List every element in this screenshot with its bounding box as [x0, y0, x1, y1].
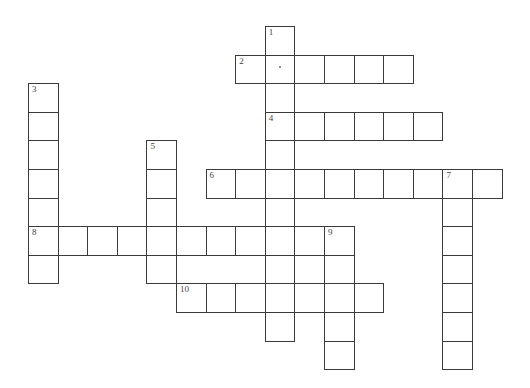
clue-number: 3: [32, 85, 37, 94]
crossword-cell[interactable]: 4: [265, 112, 296, 142]
crossword-cell[interactable]: 8: [28, 226, 59, 256]
clue-number: 6: [210, 171, 215, 180]
crossword-cell[interactable]: [146, 226, 177, 256]
crossword-cell[interactable]: [146, 169, 177, 199]
clue-number: 9: [328, 228, 333, 237]
crossword-cell[interactable]: [235, 169, 266, 199]
crossword-cell[interactable]: [265, 312, 296, 342]
crossword-cell[interactable]: [324, 255, 355, 285]
crossword-cell[interactable]: [442, 198, 473, 228]
crossword-cell[interactable]: [28, 112, 59, 142]
crossword-cell[interactable]: [28, 169, 59, 199]
crossword-cell[interactable]: [442, 312, 473, 342]
clue-number: 7: [446, 171, 451, 180]
crossword-cell[interactable]: [294, 112, 325, 142]
crossword-cell[interactable]: [146, 198, 177, 228]
crossword-cell[interactable]: [294, 55, 325, 85]
crossword-cell[interactable]: [28, 198, 59, 228]
clue-number: 10: [180, 285, 189, 294]
crossword-cell[interactable]: [265, 198, 296, 228]
clue-number: 2: [239, 57, 244, 66]
crossword-cell[interactable]: [146, 255, 177, 285]
crossword-cell[interactable]: [354, 283, 385, 313]
crossword-cell[interactable]: [442, 226, 473, 256]
crossword-cell[interactable]: [324, 341, 355, 371]
crossword-cell[interactable]: [58, 226, 89, 256]
crossword-cell[interactable]: [354, 169, 385, 199]
crossword-cell[interactable]: 6: [206, 169, 237, 199]
crossword-cell[interactable]: 9: [324, 226, 355, 256]
crossword-cell[interactable]: [472, 169, 503, 199]
clue-number: 4: [269, 114, 274, 123]
crossword-cell[interactable]: 5: [146, 140, 177, 170]
crossword-cell[interactable]: [206, 283, 237, 313]
crossword-cell[interactable]: [354, 55, 385, 85]
crossword-cell[interactable]: [265, 83, 296, 113]
crossword-cell[interactable]: [324, 112, 355, 142]
clue-number: 1: [269, 28, 274, 37]
crossword-cell[interactable]: [324, 283, 355, 313]
clue-number: 5: [150, 142, 155, 151]
crossword-cell[interactable]: [265, 140, 296, 170]
crossword-cell[interactable]: [265, 226, 296, 256]
crossword-cell[interactable]: 1: [265, 26, 296, 56]
crossword-cell[interactable]: [28, 255, 59, 285]
crossword-cell[interactable]: [206, 226, 237, 256]
crossword-cell[interactable]: [28, 140, 59, 170]
crossword-cell[interactable]: [235, 283, 266, 313]
crossword-cell[interactable]: [87, 226, 118, 256]
crossword-cell[interactable]: [294, 226, 325, 256]
crossword-cell[interactable]: [413, 169, 444, 199]
crossword-cell[interactable]: [383, 112, 414, 142]
crossword-cell[interactable]: [324, 55, 355, 85]
crossword-cell[interactable]: [324, 312, 355, 342]
crossword-cell[interactable]: [265, 55, 296, 85]
crossword-cell[interactable]: [354, 112, 385, 142]
crossword-cell[interactable]: [413, 112, 444, 142]
crossword-cell[interactable]: [294, 169, 325, 199]
crossword-cell[interactable]: [324, 169, 355, 199]
crossword-cell[interactable]: [442, 255, 473, 285]
crossword-cell[interactable]: [383, 169, 414, 199]
crossword-cell[interactable]: 7: [442, 169, 473, 199]
crossword-cell[interactable]: 2: [235, 55, 266, 85]
crossword-cell[interactable]: 10: [176, 283, 207, 313]
crossword-cell[interactable]: [265, 255, 296, 285]
clue-number: 8: [32, 228, 37, 237]
stray-mark: [279, 66, 281, 68]
crossword-cell[interactable]: [442, 283, 473, 313]
crossword-cell[interactable]: [235, 226, 266, 256]
crossword-cell[interactable]: [265, 283, 296, 313]
crossword-cell[interactable]: [383, 55, 414, 85]
crossword-cell[interactable]: [294, 283, 325, 313]
crossword-cell[interactable]: [176, 226, 207, 256]
crossword-cell[interactable]: [265, 169, 296, 199]
crossword-cell[interactable]: [117, 226, 148, 256]
crossword-grid: 14238567910: [0, 0, 530, 388]
crossword-cell[interactable]: [442, 341, 473, 371]
crossword-cell[interactable]: 3: [28, 83, 59, 113]
